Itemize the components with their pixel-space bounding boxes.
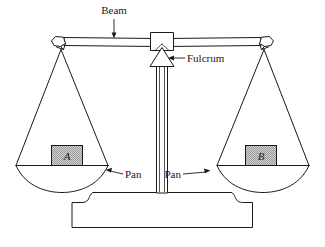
pan-right xyxy=(217,50,309,193)
fulcrum-label-group: Fulcrum xyxy=(168,52,225,64)
base xyxy=(72,193,253,228)
beam-label-group: Beam xyxy=(101,4,127,39)
block-b: B xyxy=(246,146,277,166)
fulcrum xyxy=(150,33,174,67)
balance-scale-figure: A B Beam Fulcrum Pan Pan xyxy=(0,0,325,247)
block-b-letter: B xyxy=(258,150,265,162)
beam-end-right xyxy=(260,37,274,50)
pan-right-label: Pan xyxy=(165,168,182,180)
scale-drawing: A B Beam Fulcrum Pan Pan xyxy=(0,0,325,247)
pan-right-label-group: Pan xyxy=(165,168,211,180)
beam-end-left xyxy=(52,37,66,50)
pan-left-label: Pan xyxy=(125,168,142,180)
fulcrum-label: Fulcrum xyxy=(187,52,225,64)
block-a-letter: A xyxy=(63,150,71,162)
pan-left xyxy=(16,50,108,193)
block-a: A xyxy=(52,146,83,166)
pan-right-arrow-icon xyxy=(204,169,211,174)
beam-label: Beam xyxy=(101,4,127,16)
pan-left-label-group: Pan xyxy=(106,168,143,180)
